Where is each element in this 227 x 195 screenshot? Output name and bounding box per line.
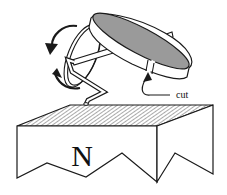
magnet: N <box>17 105 213 182</box>
split-ring <box>87 4 195 79</box>
arrowhead-icon <box>143 72 152 82</box>
pole-label: N <box>71 139 93 172</box>
cut-label: cut <box>176 89 188 100</box>
crank-wire <box>68 60 104 105</box>
rotation-arrow <box>45 26 80 89</box>
arrowhead-icon <box>45 43 58 55</box>
induction-diagram: N cut <box>0 0 227 195</box>
